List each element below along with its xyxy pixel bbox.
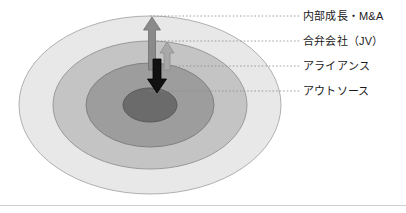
onion-diagram-canvas (0, 0, 406, 213)
footer-divider (0, 205, 406, 206)
onion-diagram: 内部成長・M&A 合弁会社（JV） アライアンス アウトソース (0, 0, 406, 213)
ring-core-ellipse (123, 88, 177, 122)
